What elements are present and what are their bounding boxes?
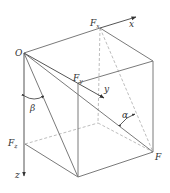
beta-arc <box>25 96 45 99</box>
z-axis-label: z <box>14 170 20 180</box>
y-axis <box>24 53 104 98</box>
fx-label: Fx <box>89 18 100 29</box>
origin-label: O <box>15 48 23 58</box>
beta-label: β <box>29 103 35 113</box>
cube-force-diagram: O x y z F Fx Fy Fz α β <box>0 0 170 193</box>
y-axis-label: y <box>103 84 110 94</box>
force-label: F <box>154 152 162 162</box>
x-axis-label: x <box>129 19 134 29</box>
alpha-label: α <box>122 110 128 120</box>
cube-edges <box>24 28 153 177</box>
fz-label: Fz <box>7 138 18 149</box>
